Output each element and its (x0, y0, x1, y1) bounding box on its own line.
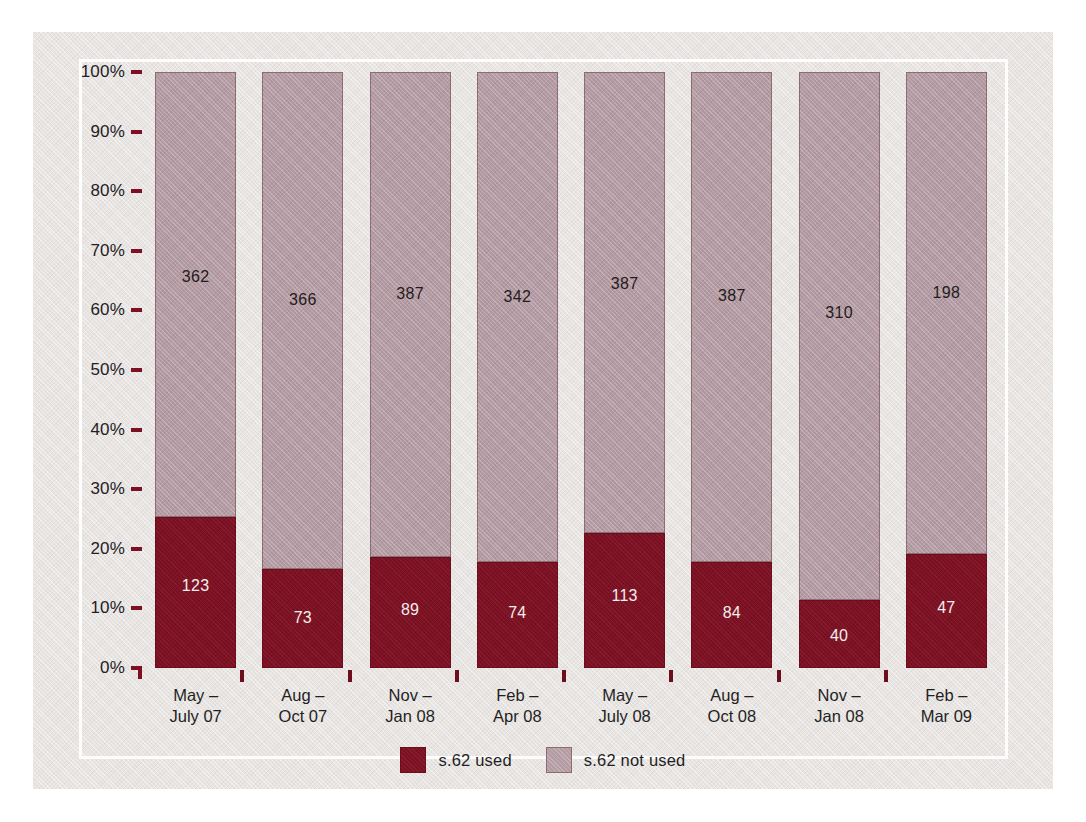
y-axis-tick-mark (131, 606, 142, 610)
bar-column[interactable]: 38789 (370, 72, 451, 668)
y-axis-tick-mark (131, 130, 142, 134)
x-axis-category-line: May – (142, 685, 249, 706)
bar-segment-not-used[interactable]: 310 (799, 72, 880, 600)
bar-value-label-not-used: 362 (156, 269, 235, 285)
x-axis-category-line: July 07 (142, 706, 249, 727)
x-axis-category-line: Jan 08 (357, 706, 464, 727)
bar-value-label-not-used: 387 (585, 276, 664, 292)
bar-column[interactable]: 38784 (691, 72, 772, 668)
stacked-bar-chart: 100%90%80%70%60%50%40%30%20%10%0% 362123… (33, 32, 1053, 789)
y-axis-tick-label: 30% (33, 479, 125, 499)
bar-value-label-not-used: 342 (478, 289, 557, 305)
bar-value-label-not-used: 387 (371, 286, 450, 302)
x-axis-tick-mark (669, 670, 673, 682)
bar-segment-not-used[interactable]: 387 (584, 72, 665, 533)
bar-column[interactable]: 19847 (906, 72, 987, 668)
x-axis-category-label: Feb –Mar 09 (893, 685, 1000, 727)
y-axis-tick-mark (131, 70, 142, 74)
y-axis-tick-mark (131, 308, 142, 312)
bar-segment-not-used[interactable]: 366 (262, 72, 343, 569)
y-axis-tick-label: 70% (33, 241, 125, 261)
bar-value-label-used: 89 (371, 602, 450, 618)
bar-segment-used[interactable]: 84 (691, 562, 772, 668)
x-axis-tick-mark (562, 670, 566, 682)
x-axis-category-line: July 08 (571, 706, 678, 727)
legend-label: s.62 not used (584, 751, 686, 770)
x-axis-category-label: May –July 07 (142, 685, 249, 727)
y-axis-tick-label: 60% (33, 300, 125, 320)
x-axis-tick-mark (455, 670, 459, 682)
y-axis-tick-mark (131, 547, 142, 551)
x-axis-category-line: Feb – (464, 685, 571, 706)
y-axis-tick-mark (131, 249, 142, 253)
x-axis-tick-mark (884, 670, 888, 682)
bar-column[interactable]: 387113 (584, 72, 665, 668)
bar-segment-not-used[interactable]: 387 (691, 72, 772, 562)
x-axis-category-line: Aug – (678, 685, 785, 706)
bar-column[interactable]: 36673 (262, 72, 343, 668)
y-axis-origin-mark (131, 666, 142, 679)
bar-segment-used[interactable]: 113 (584, 533, 665, 668)
bar-column[interactable]: 31040 (799, 72, 880, 668)
figure-panel: 100%90%80%70%60%50%40%30%20%10%0% 362123… (33, 32, 1053, 789)
bar-segment-not-used[interactable]: 362 (155, 72, 236, 517)
bar-value-label-used: 123 (156, 578, 235, 594)
x-axis-category-label: Aug –Oct 07 (249, 685, 356, 727)
bar-segment-not-used[interactable]: 342 (477, 72, 558, 562)
y-axis-tick-label: 10% (33, 598, 125, 618)
x-axis-category-line: Feb – (893, 685, 1000, 706)
y-axis-tick-label: 0% (33, 658, 125, 678)
y-axis-tick-mark (131, 428, 142, 432)
x-axis-category-line: Nov – (357, 685, 464, 706)
y-axis-tick-mark (131, 368, 142, 372)
chart-legend: s.62 useds.62 not used (33, 747, 1053, 773)
legend-swatch-used (400, 747, 426, 773)
x-axis-category-line: Oct 07 (249, 706, 356, 727)
y-axis-tick-label: 100% (33, 62, 125, 82)
bar-value-label-used: 74 (478, 605, 557, 621)
x-axis-category-label: Nov –Jan 08 (357, 685, 464, 727)
x-axis-category-line: Mar 09 (893, 706, 1000, 727)
x-axis-category-line: Aug – (249, 685, 356, 706)
x-axis-category-line: Apr 08 (464, 706, 571, 727)
bar-value-label-used: 84 (692, 605, 771, 621)
bar-segment-used[interactable]: 40 (799, 600, 880, 668)
bar-value-label-not-used: 198 (907, 285, 986, 301)
x-axis-category-line: May – (571, 685, 678, 706)
x-axis-category-line: Nov – (786, 685, 893, 706)
x-axis-category-line: Jan 08 (786, 706, 893, 727)
y-axis-tick-label: 40% (33, 420, 125, 440)
bar-segment-used[interactable]: 74 (477, 562, 558, 668)
bar-segment-used[interactable]: 47 (906, 554, 987, 668)
legend-item[interactable]: s.62 used (400, 747, 511, 773)
bar-segment-used[interactable]: 123 (155, 517, 236, 668)
bar-value-label-not-used: 310 (800, 305, 879, 321)
bar-column[interactable]: 362123 (155, 72, 236, 668)
bar-segment-used[interactable]: 89 (370, 557, 451, 668)
y-axis-tick-mark (131, 189, 142, 193)
bar-segment-not-used[interactable]: 198 (906, 72, 987, 554)
x-axis-tick-mark (777, 670, 781, 682)
bar-segment-not-used[interactable]: 387 (370, 72, 451, 557)
bar-segment-used[interactable]: 73 (262, 569, 343, 668)
bar-value-label-used: 113 (585, 588, 664, 604)
legend-item[interactable]: s.62 not used (546, 747, 686, 773)
x-axis-tick-mark (348, 670, 352, 682)
legend-swatch-not-used (546, 747, 572, 773)
legend-label: s.62 used (438, 751, 511, 770)
x-axis-category-line: Oct 08 (678, 706, 785, 727)
x-axis-tick-mark (240, 670, 244, 682)
bar-value-label-not-used: 366 (263, 292, 342, 308)
x-axis-category-label: Aug –Oct 08 (678, 685, 785, 727)
bar-value-label-used: 47 (907, 600, 986, 616)
x-axis-category-label: Nov –Jan 08 (786, 685, 893, 727)
y-axis-tick-mark (131, 487, 142, 491)
x-axis-category-label: Feb –Apr 08 (464, 685, 571, 727)
y-axis-tick-label: 50% (33, 360, 125, 380)
bar-value-label-not-used: 387 (692, 288, 771, 304)
bar-value-label-used: 73 (263, 610, 342, 626)
y-axis-tick-label: 80% (33, 181, 125, 201)
y-axis-tick-label: 20% (33, 539, 125, 559)
bar-column[interactable]: 34274 (477, 72, 558, 668)
x-axis-category-label: May –July 08 (571, 685, 678, 727)
